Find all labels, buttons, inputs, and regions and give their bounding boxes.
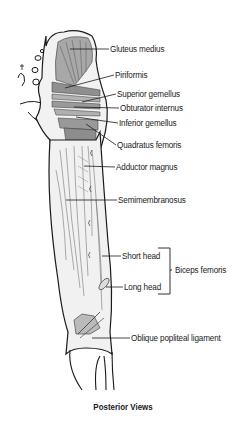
label-oblique-popliteal-ligament: Oblique popliteal ligament [131, 333, 221, 343]
deep-rotators [52, 82, 100, 130]
label-adductor-magnus: Adductor magnus [116, 162, 177, 172]
thigh-illustration [0, 0, 246, 430]
label-superior-gemellus: Superior gemellus [117, 89, 180, 99]
label-biceps-femoris: Biceps femoris [175, 265, 226, 275]
label-piriformis: Piriformis [115, 70, 147, 80]
label-semimembranosus: Semimembranosus [118, 195, 186, 205]
figure-caption: Posterior Views [15, 402, 231, 412]
label-long-head: Long head [124, 282, 161, 292]
anatomy-figure: Gluteus medius Piriformis Superior gemel… [0, 0, 246, 430]
label-quadratus-femoris: Quadratus femoris [117, 140, 181, 150]
label-short-head: Short head [122, 251, 160, 261]
label-obturator-internus: Obturator internus [120, 103, 183, 113]
lower-leg [70, 350, 114, 390]
label-gluteus-medius: Gluteus medius [110, 44, 164, 54]
label-inferior-gemellus: Inferior gemellus [119, 118, 177, 128]
